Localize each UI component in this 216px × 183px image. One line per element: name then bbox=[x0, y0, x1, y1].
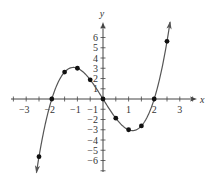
x-tick-label: −3 bbox=[19, 104, 30, 115]
data-point bbox=[101, 97, 106, 102]
x-tick-label: 1 bbox=[126, 104, 131, 115]
y-tick-label: −1 bbox=[87, 104, 98, 115]
data-point bbox=[165, 39, 170, 44]
data-point bbox=[37, 154, 42, 159]
function-graph: −3−2−1123−6−5−4−3−2−1123456xy bbox=[0, 0, 216, 183]
y-tick-label: −6 bbox=[87, 155, 98, 166]
y-tick-label: 6 bbox=[93, 32, 98, 43]
data-point bbox=[126, 127, 131, 132]
data-point bbox=[139, 124, 144, 129]
data-point bbox=[152, 97, 157, 102]
y-tick-label: −4 bbox=[87, 135, 98, 146]
data-point bbox=[113, 116, 118, 121]
y-tick-label: 3 bbox=[93, 63, 98, 74]
data-point bbox=[75, 66, 80, 71]
x-axis-label: x bbox=[199, 94, 205, 105]
x-tick-label: 3 bbox=[177, 104, 182, 115]
y-axis-label: y bbox=[99, 8, 105, 19]
data-point bbox=[49, 97, 54, 102]
y-tick-label: 4 bbox=[93, 53, 98, 64]
y-tick-label: −5 bbox=[87, 145, 98, 156]
data-point bbox=[62, 70, 67, 75]
data-point bbox=[88, 77, 93, 82]
y-tick-label: −3 bbox=[87, 124, 98, 135]
x-tick-label: −1 bbox=[70, 104, 81, 115]
y-tick-label: 5 bbox=[93, 42, 98, 53]
y-tick-label: −2 bbox=[87, 114, 98, 125]
y-tick-label: 2 bbox=[93, 73, 98, 84]
